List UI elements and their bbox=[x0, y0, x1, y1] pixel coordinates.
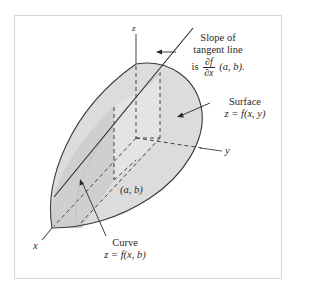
tangent-arrowhead bbox=[156, 50, 162, 55]
tangent-annotation: Slope of tangent line is ∂f ∂x (a, b). bbox=[176, 32, 260, 78]
tangent-line3: is ∂f ∂x (a, b). bbox=[176, 57, 260, 78]
curve-line1: Curve bbox=[92, 237, 158, 249]
y-axis-label: y bbox=[225, 145, 230, 157]
point-label: (a, b) bbox=[120, 184, 143, 196]
frac-denominator: ∂x bbox=[203, 68, 214, 78]
tangent-suffix: (a, b). bbox=[219, 61, 244, 72]
tangent-line2: tangent line bbox=[176, 44, 260, 56]
curve-annotation: Curve z = f(x, b) bbox=[92, 237, 158, 261]
tangent-line1: Slope of bbox=[176, 32, 260, 44]
tangent-prefix: is bbox=[191, 61, 198, 72]
x-axis bbox=[42, 228, 52, 240]
z-axis-label: z bbox=[132, 22, 136, 34]
partial-derivative: ∂f ∂x bbox=[203, 57, 214, 78]
x-axis-label: x bbox=[33, 240, 38, 252]
y-axis bbox=[200, 148, 222, 151]
surface-line1: Surface bbox=[210, 96, 280, 108]
curve-line2: z = f(x, b) bbox=[92, 249, 158, 261]
surface-annotation: Surface z = f(x, y) bbox=[210, 96, 280, 120]
surface-line2: z = f(x, y) bbox=[210, 108, 280, 120]
